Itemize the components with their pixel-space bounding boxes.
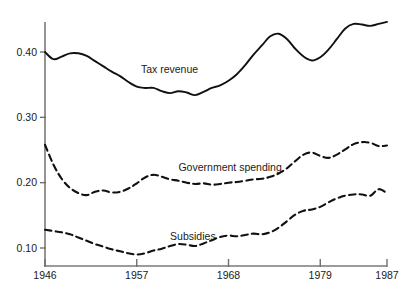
y-tick-label: 0.40 [17, 46, 38, 58]
x-tick-label: 1968 [217, 269, 241, 281]
series-label-subsidies: Subsidies [170, 230, 216, 242]
series-label-government-spending: Government spending [178, 161, 281, 173]
series-label-tax-revenue: Tax revenue [141, 63, 198, 75]
x-tick-label: 1987 [375, 269, 399, 281]
y-axis: 0.400.300.200.10 [17, 22, 46, 266]
series-labels-group: Tax revenueGovernment spendingSubsidies [141, 63, 282, 242]
line-chart: 0.400.300.200.10 19461957196819791987 Ta… [0, 0, 407, 288]
series-group [45, 22, 387, 255]
x-tick-label: 1946 [33, 269, 57, 281]
chart-container: 0.400.300.200.10 19461957196819791987 Ta… [0, 0, 407, 288]
y-tick-label: 0.10 [17, 242, 38, 254]
y-tick-label: 0.30 [17, 111, 38, 123]
x-tick-label: 1979 [309, 269, 333, 281]
series-line-tax-revenue [45, 22, 387, 95]
series-line-subsidies [45, 189, 387, 254]
x-tick-label: 1957 [125, 269, 149, 281]
x-axis: 19461957196819791987 [33, 259, 399, 281]
y-tick-label: 0.20 [17, 176, 38, 188]
